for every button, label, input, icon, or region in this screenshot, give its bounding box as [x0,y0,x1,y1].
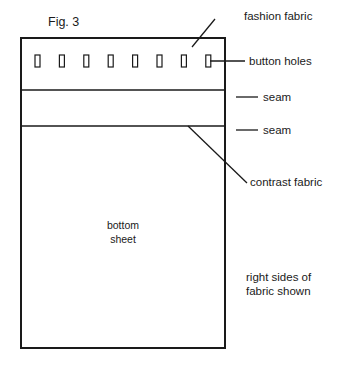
label-seam-lower: seam [263,124,291,136]
leader-fashion-fabric [192,19,215,47]
button-hole [59,55,64,67]
button-hole [157,55,162,67]
button-hole [35,55,40,67]
button-hole [108,55,113,67]
label-seam-upper: seam [263,91,291,103]
sewing-pattern-diagram: Fig. 3 fashion fabric but [0,0,341,369]
note-line-2: fabric shown [246,285,311,297]
label-button-holes: button holes [249,55,312,67]
label-contrast-fabric: contrast fabric [250,176,322,188]
button-hole [133,55,138,67]
button-holes-group [35,55,211,67]
figure-container: Fig. 3 fashion fabric but [0,0,341,369]
note-line-1: right sides of [246,271,312,283]
button-hole [84,55,89,67]
panel-text-bottom-sheet-line1: bottom [107,219,139,231]
fabric-panel-outline [21,38,225,348]
figure-title: Fig. 3 [48,15,79,29]
label-fashion-fabric: fashion fabric [244,10,313,22]
panel-text-bottom-sheet-line2: sheet [110,233,136,245]
button-hole [181,55,186,67]
leader-contrast-fabric [188,126,247,183]
